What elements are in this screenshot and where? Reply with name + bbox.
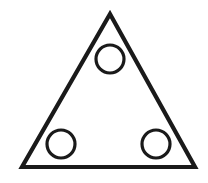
figure-canvas: [0, 0, 208, 183]
diagram-svg: [0, 0, 208, 183]
